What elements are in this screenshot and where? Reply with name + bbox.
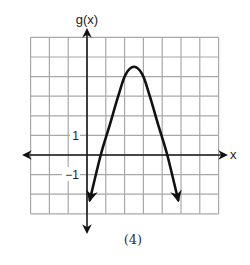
grid — [31, 37, 219, 213]
y-axis-label: g(x) — [76, 12, 98, 27]
figure-caption: (4) — [124, 232, 142, 247]
y-tick-label-neg1: −1 — [65, 168, 79, 182]
x-axis-label: x — [230, 147, 237, 162]
parabola-curve — [90, 67, 178, 200]
y-tick-label-1: 1 — [72, 129, 79, 143]
graph: 1 −1 g(x) x (4) — [0, 0, 250, 265]
